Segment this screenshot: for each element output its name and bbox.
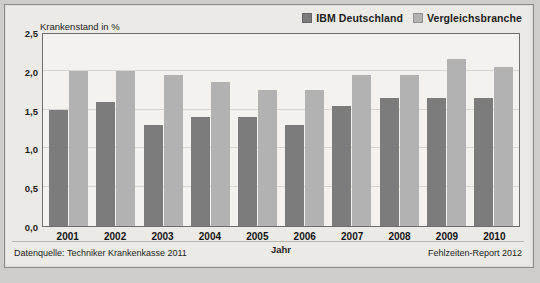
footer-report: Fehlzeiten-Report 2012 xyxy=(428,248,522,258)
bar-ibm-2003 xyxy=(144,125,163,226)
bar-group xyxy=(45,34,92,226)
legend-label-vergleichsbranche: Vergleichsbranche xyxy=(427,12,522,24)
plot-canvas xyxy=(42,33,520,227)
footer-divider xyxy=(12,241,524,242)
bar-ibm-2007 xyxy=(332,106,351,226)
bar-ibm-2010 xyxy=(474,98,493,226)
bar-vergleichsbranche-2006 xyxy=(305,90,324,226)
bar-ibm-2006 xyxy=(285,125,304,226)
bar-vergleichsbranche-2004 xyxy=(211,82,230,226)
bar-vergleichsbranche-2005 xyxy=(258,90,277,226)
bar-vergleichsbranche-2008 xyxy=(400,75,419,226)
bar-group xyxy=(470,34,517,226)
bar-ibm-2001 xyxy=(49,110,68,226)
legend-item-vergleichsbranche: Vergleichsbranche xyxy=(413,12,522,24)
bar-group xyxy=(328,34,375,226)
bar-vergleichsbranche-2001 xyxy=(69,71,88,226)
y-tick-label: 1,5 xyxy=(25,105,38,116)
bar-group xyxy=(92,34,139,226)
bar-group xyxy=(234,34,281,226)
y-tick-label: 1,0 xyxy=(25,144,38,155)
bar-group xyxy=(281,34,328,226)
y-axis-title: Krankenstand in % xyxy=(40,21,120,32)
bar-ibm-2002 xyxy=(96,102,115,226)
bar-groups xyxy=(43,34,519,226)
y-tick-label: 2,5 xyxy=(25,28,38,39)
footer-source: Datenquelle: Techniker Krankenkasse 2011 xyxy=(14,248,187,258)
legend-swatch-vergleichsbranche xyxy=(413,13,423,23)
bar-ibm-2004 xyxy=(191,117,210,226)
legend-item-ibm: IBM Deutschland xyxy=(302,12,403,24)
chart-legend: IBM Deutschland Vergleichsbranche xyxy=(302,12,522,24)
chart-footer: Datenquelle: Techniker Krankenkasse 2011… xyxy=(14,248,522,258)
chart-frame: IBM Deutschland Vergleichsbranche Kranke… xyxy=(4,4,534,268)
bar-ibm-2009 xyxy=(427,98,446,226)
bar-vergleichsbranche-2002 xyxy=(116,71,135,226)
bar-group xyxy=(375,34,422,226)
plot-area xyxy=(42,33,520,227)
bar-group xyxy=(139,34,186,226)
chart-paper: IBM Deutschland Vergleichsbranche Kranke… xyxy=(6,6,530,264)
bar-group xyxy=(187,34,234,226)
bar-vergleichsbranche-2003 xyxy=(164,75,183,226)
y-axis-ticks: 0,00,51,01,52,02,5 xyxy=(12,33,40,227)
bar-group xyxy=(423,34,470,226)
y-tick-label: 2,0 xyxy=(25,66,38,77)
bar-vergleichsbranche-2009 xyxy=(447,59,466,226)
bar-vergleichsbranche-2010 xyxy=(494,67,513,226)
bar-vergleichsbranche-2007 xyxy=(352,75,371,226)
bar-ibm-2008 xyxy=(380,98,399,226)
legend-swatch-ibm xyxy=(302,13,312,23)
chart-screenshot: IBM Deutschland Vergleichsbranche Kranke… xyxy=(0,0,540,283)
y-tick-label: 0,5 xyxy=(25,183,38,194)
bar-ibm-2005 xyxy=(238,117,257,226)
y-tick-label: 0,0 xyxy=(25,222,38,233)
legend-label-ibm: IBM Deutschland xyxy=(316,12,403,24)
